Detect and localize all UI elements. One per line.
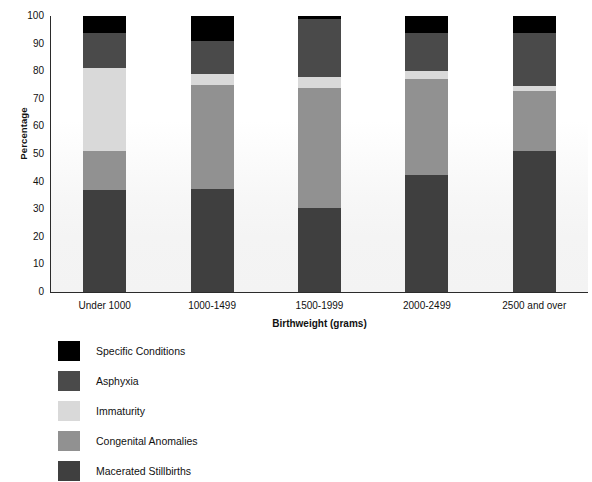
bar-segment: [405, 79, 448, 174]
x-tick-label: 2500 and over: [479, 300, 589, 311]
plot-area: [51, 16, 588, 292]
legend-label: Asphyxia: [96, 375, 139, 387]
x-tick-label: 1500-1999: [265, 300, 375, 311]
legend-swatch-icon: [58, 341, 80, 361]
legend-item: Specific Conditions: [58, 336, 458, 365]
y-tick-label: 50: [18, 149, 44, 159]
bar-segment: [83, 16, 126, 33]
y-tick-label: 80: [18, 66, 44, 76]
y-tick-label: 20: [18, 232, 44, 242]
y-tick-label: 100: [18, 11, 44, 21]
y-tick-label: 90: [18, 39, 44, 49]
y-tick-label: 30: [18, 204, 44, 214]
bar-segment: [298, 19, 341, 77]
bar-segment: [83, 68, 126, 151]
bar-segment: [83, 151, 126, 190]
y-axis-tick-labels: 0102030405060708090100: [16, 0, 44, 300]
legend-swatch-icon: [58, 431, 80, 451]
x-axis-title: Birthweight (grams): [51, 318, 588, 329]
bar-segment: [298, 77, 341, 88]
y-tick-label: 70: [18, 94, 44, 104]
legend-label: Congenital Anomalies: [96, 435, 198, 447]
x-axis-line: [50, 292, 588, 293]
legend-item: Macerated Stillbirths: [58, 456, 458, 482]
legend-label: Immaturity: [96, 405, 145, 417]
y-tick-label: 10: [18, 259, 44, 269]
plot-region: Percentage 0102030405060708090100 Under …: [0, 0, 592, 300]
bar-segment: [191, 85, 234, 189]
legend-item: Immaturity: [58, 396, 458, 425]
legend-item: Asphyxia: [58, 366, 458, 395]
x-tick-label: 1000-1499: [157, 300, 267, 311]
legend-swatch-icon: [58, 461, 80, 481]
legend-swatch-icon: [58, 401, 80, 421]
x-tick-label: Under 1000: [50, 300, 160, 311]
legend-swatch-icon: [58, 371, 80, 391]
bar-segment: [513, 91, 556, 152]
bar-segment: [513, 16, 556, 33]
x-tick-label: 2000-2499: [372, 300, 482, 311]
bar-5: [513, 16, 556, 292]
bar-segment: [83, 33, 126, 69]
bar-segment: [405, 71, 448, 79]
legend-label: Macerated Stillbirths: [96, 465, 191, 477]
legend-item: Congenital Anomalies: [58, 426, 458, 455]
bar-segment: [513, 151, 556, 292]
bar-segment: [191, 189, 234, 293]
bar-segment: [83, 190, 126, 292]
bar-segment: [298, 88, 341, 208]
y-tick-label: 0: [18, 287, 44, 297]
bar-3: [298, 16, 341, 292]
bar-segment: [191, 74, 234, 85]
stacked-bar-chart: Percentage 0102030405060708090100 Under …: [0, 0, 592, 482]
legend-label: Specific Conditions: [96, 345, 185, 357]
bar-1: [83, 16, 126, 292]
bar-segment: [513, 33, 556, 87]
chart-legend: Specific ConditionsAsphyxiaImmaturityCon…: [58, 336, 458, 482]
bar-2: [191, 16, 234, 292]
bar-segment: [298, 208, 341, 292]
bar-segment: [405, 175, 448, 292]
bar-segment: [191, 41, 234, 74]
bar-segment: [405, 16, 448, 33]
bar-4: [405, 16, 448, 292]
bar-segment: [405, 33, 448, 72]
y-tick-label: 40: [18, 177, 44, 187]
y-tick-label: 60: [18, 121, 44, 131]
bar-segment: [191, 16, 234, 41]
